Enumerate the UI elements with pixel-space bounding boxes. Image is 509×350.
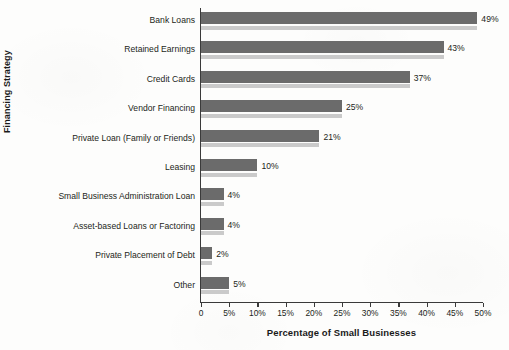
x-axis-tick: [201, 303, 202, 307]
bar-shadow: [201, 261, 212, 265]
bar-fill: [201, 277, 229, 289]
bar-fill: [201, 41, 444, 53]
bar: [201, 188, 224, 218]
x-axis-tick-label: 20%: [305, 308, 322, 319]
x-axis-tick: [398, 303, 399, 307]
x-axis-tick: [342, 303, 343, 307]
bar-value-label: 25%: [346, 101, 363, 113]
bar: [201, 247, 212, 277]
bar-fill: [201, 159, 257, 171]
x-axis-tick: [455, 303, 456, 307]
category-label: Private Loan (Family or Friends): [0, 132, 195, 145]
bar-shadow: [201, 55, 444, 59]
category-label: Bank Loans: [0, 14, 195, 27]
bar: [201, 100, 342, 130]
plot-area: Bank Loans49%Retained Earnings43%Credit …: [0, 0, 509, 350]
bar-fill: [201, 247, 212, 259]
x-axis-tick-label: 0: [199, 308, 204, 319]
bar-row: Credit Cards37%: [0, 71, 509, 101]
x-axis-tick: [286, 303, 287, 307]
category-label: Credit Cards: [0, 73, 195, 86]
bar-fill: [201, 71, 410, 83]
bar-shadow: [201, 26, 477, 30]
bar-value-label: 49%: [481, 13, 498, 25]
bar-value-label: 5%: [233, 278, 245, 290]
x-axis-tick: [427, 303, 428, 307]
x-axis-tick: [483, 303, 484, 307]
x-axis-tick: [370, 303, 371, 307]
bar-row: Asset-based Loans or Factoring4%: [0, 218, 509, 248]
bar-value-label: 21%: [323, 131, 340, 143]
bar-fill: [201, 12, 477, 24]
category-label: Vendor Financing: [0, 102, 195, 115]
bar-shadow: [201, 84, 410, 88]
bar-shadow: [201, 114, 342, 118]
bar-row: Private Loan (Family or Friends)21%: [0, 130, 509, 160]
category-label: Other: [0, 279, 195, 292]
x-axis-tick-label: 40%: [418, 308, 435, 319]
bar: [201, 130, 319, 160]
x-axis-tick: [314, 303, 315, 307]
x-axis-tick: [229, 303, 230, 307]
bar-row: Leasing10%: [0, 159, 509, 189]
x-axis-tick-label: 10%: [249, 308, 266, 319]
x-axis-tick: [257, 303, 258, 307]
bar: [201, 71, 410, 101]
x-axis-tick-label: 50%: [475, 308, 492, 319]
x-axis-tick-label: 25%: [334, 308, 351, 319]
bar-shadow: [201, 202, 224, 206]
bar-value-label: 43%: [448, 42, 465, 54]
x-axis-tick-label: 15%: [277, 308, 294, 319]
bar-value-label: 2%: [216, 248, 228, 260]
category-label: Small Business Administration Loan: [0, 190, 195, 203]
bar-row: Other5%: [0, 277, 509, 307]
x-axis-tick-label: 45%: [446, 308, 463, 319]
x-axis-tick-label: 30%: [362, 308, 379, 319]
x-axis-title: Percentage of Small Businesses: [200, 327, 483, 338]
bar-row: Bank Loans49%: [0, 12, 509, 42]
bar-fill: [201, 130, 319, 142]
bar-value-label: 4%: [228, 219, 240, 231]
bar-fill: [201, 188, 224, 200]
bar-value-label: 37%: [414, 72, 431, 84]
bar: [201, 218, 224, 248]
category-label: Leasing: [0, 161, 195, 174]
bar-shadow: [201, 290, 229, 294]
bar-row: Small Business Administration Loan4%: [0, 188, 509, 218]
bar-shadow: [201, 143, 319, 147]
category-label: Retained Earnings: [0, 43, 195, 56]
x-axis-tick-label: 35%: [390, 308, 407, 319]
bar: [201, 159, 257, 189]
category-label: Private Placement of Debt: [0, 249, 195, 262]
bar-fill: [201, 100, 342, 112]
bar-shadow: [201, 231, 224, 235]
bar-shadow: [201, 173, 257, 177]
bar-row: Vendor Financing25%: [0, 100, 509, 130]
category-label: Asset-based Loans or Factoring: [0, 220, 195, 233]
x-axis-tick-label: 5%: [223, 308, 235, 319]
bar: [201, 277, 229, 307]
bar-row: Private Placement of Debt2%: [0, 247, 509, 277]
bar-value-label: 10%: [261, 160, 278, 172]
bar: [201, 12, 477, 42]
bar-row: Retained Earnings43%: [0, 41, 509, 71]
bar-chart: Financing Strategy Bank Loans49%Retained…: [0, 0, 509, 350]
bar: [201, 41, 444, 71]
bar-value-label: 4%: [228, 189, 240, 201]
bar-fill: [201, 218, 224, 230]
